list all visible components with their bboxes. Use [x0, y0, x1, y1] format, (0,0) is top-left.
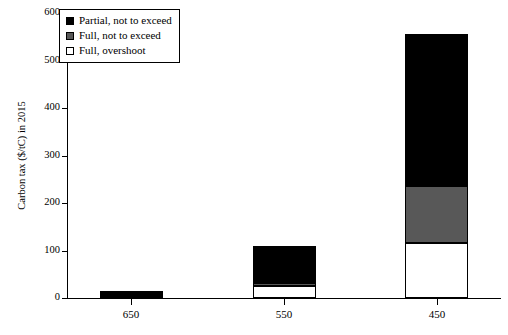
bar-450: [405, 13, 468, 298]
legend-item-label: Full, not to exceed: [79, 30, 161, 41]
y-tick-label-wrap: 200: [12, 197, 60, 209]
x-tick-label: 650: [91, 309, 171, 320]
y-tick-label: 600: [16, 7, 60, 18]
x-tick-label: 550: [244, 309, 324, 320]
x-tick-label: 450: [397, 309, 477, 320]
y-tick-label: 100: [16, 245, 60, 256]
legend-item-label: Partial, not to exceed: [79, 15, 172, 26]
y-tick-label: 300: [16, 150, 60, 161]
legend-item: Partial, not to exceed: [66, 13, 172, 28]
white-swatch-icon: [66, 47, 74, 55]
y-tick-label-wrap: 600: [12, 7, 60, 19]
x-tick-mark: [131, 299, 132, 305]
black-swatch-icon: [66, 17, 74, 25]
bar-segment: [253, 246, 316, 283]
bar-segment: [405, 34, 468, 186]
y-tick-label: 0: [16, 292, 60, 303]
y-tick-mark: [62, 251, 68, 252]
x-tick-mark: [284, 299, 285, 305]
legend-item: Full, not to exceed: [66, 28, 172, 43]
y-tick-mark: [62, 156, 68, 157]
legend-item: Full, overshoot: [66, 43, 172, 58]
y-tick-mark: [62, 108, 68, 109]
bar-segment: [405, 243, 468, 298]
y-tick-label-wrap: 500: [12, 55, 60, 67]
bar-segment: [253, 283, 316, 286]
y-tick-label-wrap: 300: [12, 150, 60, 162]
bar-segment: [253, 286, 316, 298]
legend: Partial, not to exceed Full, not to exce…: [59, 9, 180, 63]
gray-swatch-icon: [66, 32, 74, 40]
y-tick-label-wrap: 0: [12, 292, 60, 304]
y-tick-label: 500: [16, 55, 60, 66]
bar-segment: [405, 186, 468, 243]
x-tick-mark: [437, 299, 438, 305]
bar-550: [253, 13, 316, 298]
legend-item-label: Full, overshoot: [79, 45, 146, 56]
y-tick-label-wrap: 400: [12, 102, 60, 114]
y-tick-label: 200: [16, 197, 60, 208]
bar-segment: [100, 291, 163, 297]
y-tick-label: 400: [16, 102, 60, 113]
y-tick-label-wrap: 100: [12, 245, 60, 257]
y-tick-mark: [62, 203, 68, 204]
stacked-bar-chart: Carbon tax ($/tC) in 2015 01002003004005…: [0, 0, 508, 335]
